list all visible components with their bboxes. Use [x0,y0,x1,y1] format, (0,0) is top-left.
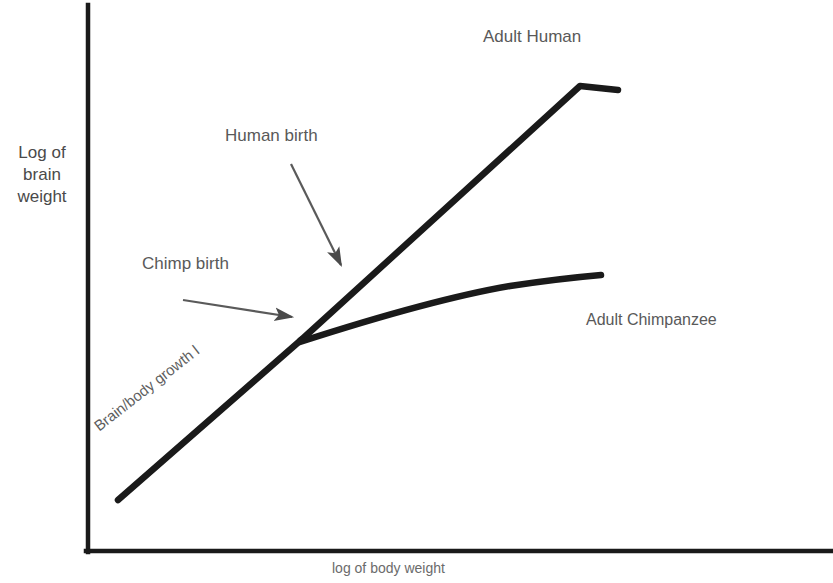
axis-lines [86,5,833,552]
chart-figure-svg [0,0,833,583]
x-axis-title: log of body weight [332,560,445,578]
label-adult-chimpanzee: Adult Chimpanzee [586,310,717,330]
label-adult-human: Adult Human [483,26,581,48]
label-human-birth: Human birth [225,125,318,147]
human-birth-arrow [291,164,341,265]
y-axis-title: Log of brain weight [4,142,80,207]
y-axis-title-line-3: weight [4,186,80,208]
chimpanzee-curve [300,275,601,342]
chimp-birth-arrow [183,300,292,317]
y-axis-title-line-2: brain [4,164,80,186]
human-curve [300,86,618,341]
label-chimp-birth: Chimp birth [142,253,229,275]
y-axis-title-line-1: Log of [4,142,80,164]
growth-line-curve [118,340,301,500]
